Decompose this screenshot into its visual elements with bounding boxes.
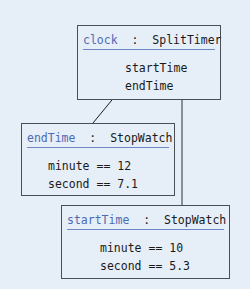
field-second: second == 5.3 — [100, 259, 190, 273]
object-name: endTime — [27, 131, 75, 145]
object-type: SplitTimer — [152, 33, 221, 47]
field-endtime: endTime — [125, 79, 173, 93]
object-header: endTime : StopWatch — [27, 131, 172, 145]
object-endtime: endTime : StopWatch minute == 12 second … — [21, 123, 175, 196]
header-underline — [83, 49, 215, 50]
header-underline — [27, 147, 169, 148]
object-starttime: startTime : StopWatch minute == 10 secon… — [61, 205, 230, 279]
object-type: StopWatch — [164, 213, 226, 227]
object-clock: clock : SplitTimer startTime endTime — [77, 25, 221, 100]
field-minute: minute == 10 — [100, 241, 183, 255]
field-minute: minute == 12 — [48, 159, 131, 173]
field-second: second == 7.1 — [48, 177, 138, 191]
field-starttime: startTime — [125, 61, 187, 75]
object-name: startTime — [67, 213, 129, 227]
object-header: clock : SplitTimer — [83, 33, 222, 47]
object-name: clock — [83, 33, 118, 47]
header-underline — [67, 229, 224, 230]
object-type: StopWatch — [110, 131, 172, 145]
object-header: startTime : StopWatch — [67, 213, 226, 227]
